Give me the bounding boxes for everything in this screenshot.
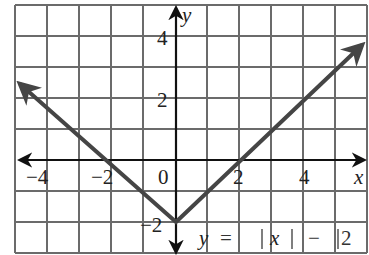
y-axis-label: y: [180, 3, 192, 27]
tick-x-0: 0: [158, 165, 169, 189]
tick-y-2: 2: [157, 88, 168, 112]
tick-x-neg2: −2: [91, 165, 113, 189]
graph: −4 −2 0 2 4 4 2 −2 y x y = x − 2: [0, 0, 369, 255]
equation-label: y = x − 2: [197, 226, 352, 250]
svg-text:y: y: [197, 226, 209, 250]
tick-labels: −4 −2 0 2 4 4 2 −2: [26, 26, 310, 237]
tick-x-2: 2: [233, 165, 244, 189]
svg-text:−: −: [308, 226, 320, 250]
tick-y-4: 4: [157, 26, 168, 50]
svg-text:=: =: [220, 226, 232, 250]
tick-y-neg2: −2: [140, 213, 162, 237]
grid: [15, 5, 367, 253]
tick-x-neg4: −4: [26, 165, 49, 189]
svg-text:x: x: [269, 226, 280, 250]
curve-abs-x-minus-2: [20, 45, 362, 222]
svg-text:2: 2: [341, 226, 352, 250]
tick-x-4: 4: [299, 165, 310, 189]
x-axis-label: x: [353, 165, 364, 189]
